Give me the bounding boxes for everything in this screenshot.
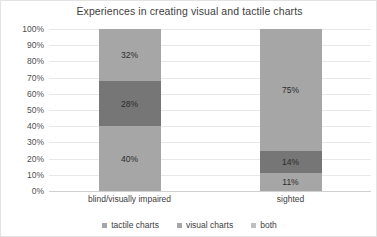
bar-value-label: 28% bbox=[121, 99, 138, 109]
y-tick-label: 90% bbox=[1, 40, 44, 50]
legend-swatch-icon bbox=[177, 223, 182, 228]
x-tick-label: blind/visually impaired bbox=[88, 194, 171, 204]
bar-segment[interactable]: 28% bbox=[99, 81, 161, 126]
bar-segment[interactable]: 32% bbox=[99, 29, 161, 81]
gridline-0% bbox=[49, 191, 371, 192]
bar-value-label: 32% bbox=[121, 50, 138, 60]
chart-title: Experiences in creating visual and tacti… bbox=[1, 5, 377, 17]
bar-value-label: 40% bbox=[121, 154, 138, 164]
y-tick-label: 50% bbox=[1, 105, 44, 115]
legend-label: tactile charts bbox=[111, 220, 159, 230]
plot-area: 40%28%32%11%14%75% bbox=[49, 29, 371, 191]
bar-stack[interactable]: 40%28%32% bbox=[99, 29, 161, 191]
y-tick-label: 0% bbox=[1, 186, 44, 196]
bar-segment[interactable]: 14% bbox=[260, 151, 322, 174]
y-tick-label: 100% bbox=[1, 24, 44, 34]
gridline-10% bbox=[49, 175, 371, 176]
bar-segment[interactable]: 11% bbox=[260, 173, 322, 191]
x-axis: blind/visually impairedsighted bbox=[49, 194, 371, 210]
bar-segment[interactable]: 40% bbox=[99, 126, 161, 191]
bar-value-label: 11% bbox=[282, 177, 298, 187]
legend-label: visual charts bbox=[186, 220, 233, 230]
gridline-100% bbox=[49, 29, 371, 30]
bar-segment[interactable]: 75% bbox=[260, 29, 322, 151]
gridline-20% bbox=[49, 159, 371, 160]
gridline-60% bbox=[49, 94, 371, 95]
legend-swatch-icon bbox=[251, 223, 256, 228]
y-tick-label: 80% bbox=[1, 56, 44, 66]
y-axis: 100%90%80%70%60%50%40%30%20%10%0% bbox=[1, 29, 44, 191]
legend-swatch-icon bbox=[102, 223, 107, 228]
bar-stack[interactable]: 11%14%75% bbox=[260, 29, 322, 191]
gridline-70% bbox=[49, 78, 371, 79]
x-tick-label: sighted bbox=[277, 194, 304, 204]
gridline-90% bbox=[49, 45, 371, 46]
y-tick-label: 20% bbox=[1, 154, 44, 164]
bar-value-label: 75% bbox=[282, 85, 299, 95]
y-tick-label: 40% bbox=[1, 121, 44, 131]
legend-label: both bbox=[260, 220, 277, 230]
bar-value-label: 14% bbox=[282, 157, 299, 167]
y-tick-label: 10% bbox=[1, 170, 44, 180]
y-tick-label: 30% bbox=[1, 137, 44, 147]
legend-item[interactable]: both bbox=[251, 220, 277, 230]
legend-item[interactable]: visual charts bbox=[177, 220, 233, 230]
gridline-80% bbox=[49, 61, 371, 62]
gridline-40% bbox=[49, 126, 371, 127]
chart-legend: tactile chartsvisual chartsboth bbox=[1, 220, 377, 230]
y-tick-label: 60% bbox=[1, 89, 44, 99]
gridline-30% bbox=[49, 142, 371, 143]
legend-item[interactable]: tactile charts bbox=[102, 220, 159, 230]
y-tick-label: 70% bbox=[1, 73, 44, 83]
gridline-50% bbox=[49, 110, 371, 111]
chart-container: Experiences in creating visual and tacti… bbox=[0, 0, 377, 237]
